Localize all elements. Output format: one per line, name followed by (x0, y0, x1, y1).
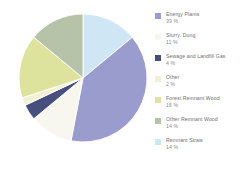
legend-swatch-energy-plants (155, 13, 161, 19)
legend-swatch-other-remnant-wood (155, 118, 161, 124)
legend-value-other-remnant-wood: 14 % (166, 123, 240, 130)
legend-label-other-remnant-wood: Other Remnant Wood (166, 116, 240, 123)
legend-item-sewage-and-landfill-gas[interactable]: Sewage and Landfill Gas 4 % (155, 53, 240, 74)
legend-item-forest-remnant-wood[interactable]: Forest Remnant Wood 16 % (155, 95, 240, 116)
legend-value-forest-remnant-wood: 16 % (166, 102, 240, 109)
legend-value-energy-plants: 39 % (166, 18, 240, 25)
legend-item-slurry-dung[interactable]: Slurry, Dung 11 % (155, 32, 240, 53)
legend-value-sewage-and-landfill-gas: 4 % (166, 60, 240, 67)
pie-chart-figure: Energy Plants 39 % Slurry, Dung 11 % Sew… (0, 0, 240, 177)
legend-item-energy-plants[interactable]: Energy Plants 39 % (155, 11, 240, 32)
legend-item-remnant-straw[interactable]: Remnant Straw 14 % (155, 137, 240, 158)
legend-label-other: Other (166, 74, 240, 81)
legend-value-other: 2 % (166, 81, 240, 88)
pie-chart-plot-area (18, 12, 150, 146)
legend-label-slurry-dung: Slurry, Dung (166, 32, 240, 39)
legend-item-other[interactable]: Other 2 % (155, 74, 240, 95)
legend-value-remnant-straw: 14 % (166, 144, 240, 151)
legend-label-energy-plants: Energy Plants (166, 11, 240, 18)
legend-item-other-remnant-wood[interactable]: Other Remnant Wood 14 % (155, 116, 240, 137)
legend-swatch-other (155, 76, 161, 82)
pie-slice-group (19, 14, 147, 142)
legend-swatch-remnant-straw (155, 139, 161, 145)
chart-legend: Energy Plants 39 % Slurry, Dung 11 % Sew… (155, 11, 240, 158)
legend-label-remnant-straw: Remnant Straw (166, 137, 240, 144)
legend-label-forest-remnant-wood: Forest Remnant Wood (166, 95, 240, 102)
pie-chart-svg (18, 12, 150, 146)
legend-swatch-forest-remnant-wood (155, 97, 161, 103)
legend-label-sewage-and-landfill-gas: Sewage and Landfill Gas (166, 53, 240, 60)
legend-value-slurry-dung: 11 % (166, 39, 240, 46)
legend-swatch-sewage-and-landfill-gas (155, 55, 161, 61)
legend-swatch-slurry-dung (155, 34, 161, 40)
